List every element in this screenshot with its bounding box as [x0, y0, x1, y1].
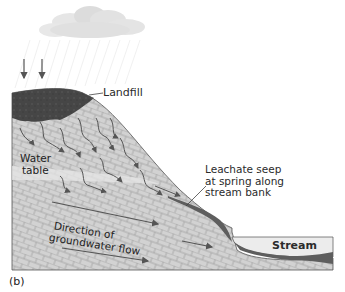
water-table-label-line-1: Water: [20, 152, 51, 164]
rain-streaks: [15, 40, 140, 88]
leachate-label-line-1: Leachate seep: [205, 164, 284, 176]
leachate-seep-label: Leachate seep at spring along stream ban…: [205, 164, 284, 199]
cloud-icon: [39, 6, 145, 38]
leachate-label-line-3: stream bank: [205, 187, 284, 199]
water-table-label-line-2: table: [20, 164, 51, 176]
leachate-leader-line: [186, 186, 206, 206]
panel-label: (b): [9, 276, 25, 287]
water-table-label: Water table: [20, 152, 51, 176]
landfill-leader-line: [89, 93, 103, 95]
stream-label: Stream: [272, 240, 317, 251]
landfill-label: Landfill: [103, 87, 143, 98]
